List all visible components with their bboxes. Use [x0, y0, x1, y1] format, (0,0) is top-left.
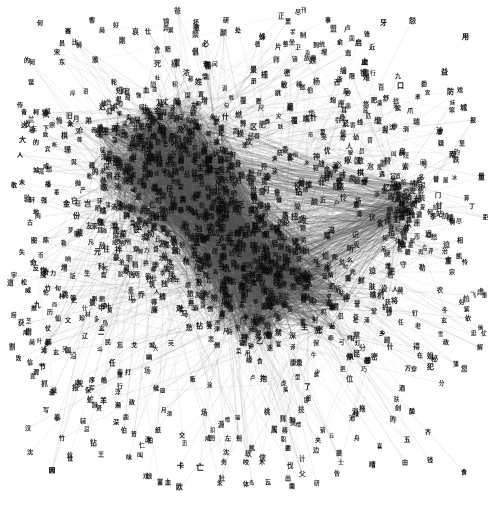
network-graph-figure: 何赛客员的宋东误比尚仕弄好坏研处里事牙怨俞启制到近用止限益西妙防戏肥舒口耳挨城报…: [0, 0, 498, 516]
network-graph-canvas: [0, 0, 498, 516]
